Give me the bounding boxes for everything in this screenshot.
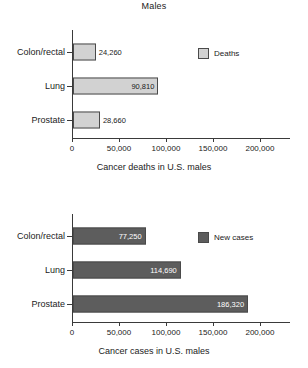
bar-value-label: 90,810 xyxy=(131,82,154,91)
new-cases-chart-panel: 050,000100,000150,000200,000Colon/rectal… xyxy=(0,200,308,368)
x-axis-tick xyxy=(119,322,120,326)
x-axis-tick xyxy=(213,322,214,326)
x-axis-tick xyxy=(213,138,214,142)
bar: 24,260 xyxy=(73,44,96,61)
x-axis-tick xyxy=(119,138,120,142)
x-axis-tick-label: 200,000 xyxy=(245,328,274,337)
deaths-legend-swatch xyxy=(198,48,209,59)
x-axis-tick xyxy=(72,138,73,142)
bar-value-label: 24,260 xyxy=(99,48,122,57)
deaths-legend: Deaths xyxy=(198,48,239,59)
bar-value-label: 28,660 xyxy=(103,116,126,125)
x-axis-tick-label: 200,000 xyxy=(245,144,274,153)
x-axis-tick-label: 0 xyxy=(70,328,74,337)
deaths-chart-panel: 050,000100,000150,000200,000Colon/rectal… xyxy=(0,16,308,184)
x-axis-tick-label: 100,000 xyxy=(151,328,180,337)
x-axis-tick xyxy=(260,138,261,142)
bar: 186,320 xyxy=(73,296,248,313)
x-axis-tick-label: 150,000 xyxy=(198,328,227,337)
category-label: Prostate xyxy=(31,115,65,125)
x-axis-tick-label: 50,000 xyxy=(107,328,131,337)
x-axis-tick-label: 50,000 xyxy=(107,144,131,153)
category-label: Lung xyxy=(45,81,65,91)
new-cases-plot-area: 050,000100,000150,000200,000Colon/rectal… xyxy=(72,214,290,322)
category-label: Colon/rectal xyxy=(17,231,65,241)
bar-value-label: 186,320 xyxy=(217,300,244,309)
new-cases-x-axis-line xyxy=(72,322,290,323)
x-axis-tick-label: 100,000 xyxy=(151,144,180,153)
category-tick xyxy=(67,52,72,53)
category-label: Colon/rectal xyxy=(17,47,65,57)
bar-value-label: 114,690 xyxy=(150,266,177,275)
deaths-x-axis-title: Cancer deaths in U.S. males xyxy=(0,162,308,172)
deaths-x-axis-line xyxy=(72,138,290,139)
deaths-plot-area: 050,000100,000150,000200,000Colon/rectal… xyxy=(72,30,290,138)
category-tick xyxy=(67,236,72,237)
bar: 28,660 xyxy=(73,112,100,129)
category-tick xyxy=(67,270,72,271)
new-cases-legend-swatch xyxy=(198,232,209,243)
category-label: Lung xyxy=(45,265,65,275)
figure-title: Males xyxy=(0,1,308,11)
cancer-statistics-figure: Males 050,000100,000150,000200,000Colon/… xyxy=(0,0,308,368)
new-cases-legend: New cases xyxy=(198,232,253,243)
x-axis-tick xyxy=(166,322,167,326)
bar: 114,690 xyxy=(73,262,181,279)
category-label: Prostate xyxy=(31,299,65,309)
x-axis-tick-label: 150,000 xyxy=(198,144,227,153)
category-tick xyxy=(67,120,72,121)
category-tick xyxy=(67,86,72,87)
bar: 77,250 xyxy=(73,228,146,245)
new-cases-legend-label: New cases xyxy=(214,233,253,242)
new-cases-x-axis-title: Cancer cases in U.S. males xyxy=(0,346,308,356)
x-axis-tick-label: 0 xyxy=(70,144,74,153)
x-axis-tick xyxy=(72,322,73,326)
deaths-legend-label: Deaths xyxy=(214,49,239,58)
x-axis-tick xyxy=(260,322,261,326)
category-tick xyxy=(67,304,72,305)
bar-value-label: 77,250 xyxy=(119,232,142,241)
bar: 90,810 xyxy=(73,78,158,95)
x-axis-tick xyxy=(166,138,167,142)
